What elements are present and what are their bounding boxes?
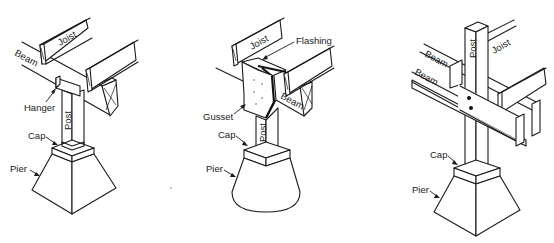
label-flashing: Flashing bbox=[296, 35, 332, 46]
pier bbox=[232, 158, 300, 212]
post-and-pier-diagrams: Joist Beam Hanger Post Cap Pier bbox=[0, 0, 554, 243]
label-cap: Cap bbox=[28, 130, 45, 141]
beam-front-left-end bbox=[450, 60, 462, 88]
label-post: Post bbox=[62, 111, 73, 130]
label-beam-upper: Beam bbox=[423, 48, 450, 69]
pier bbox=[32, 154, 116, 214]
label-gusset: Gusset bbox=[203, 111, 233, 122]
label-cap: Cap bbox=[218, 129, 235, 140]
label-post: Post bbox=[467, 39, 478, 58]
cap-leader-arrow bbox=[448, 156, 458, 165]
pier-leader-arrow bbox=[224, 170, 236, 177]
label-pier: Pier bbox=[412, 184, 429, 195]
cap-leader-arrow bbox=[236, 136, 248, 146]
figure-gusset-connection: Joist Flashing Gusset Beam Post Cap Pier bbox=[203, 18, 334, 212]
label-post: Post bbox=[257, 123, 268, 142]
hanger-leader-arrow bbox=[46, 88, 56, 102]
figure-hanger-connection: Joist Beam Hanger Post Cap Pier bbox=[10, 18, 138, 214]
label-pier: Pier bbox=[10, 163, 27, 174]
pier-leader-arrow bbox=[30, 170, 40, 176]
label-pier: Pier bbox=[206, 163, 223, 174]
label-cap: Cap bbox=[430, 149, 447, 160]
cap-leader-arrow bbox=[46, 137, 58, 145]
label-joist: Joist bbox=[490, 36, 513, 55]
figure-through-post-connection: Post Beam Beam Joist Cap Pier bbox=[412, 20, 546, 236]
stray-mark bbox=[170, 187, 172, 189]
pier bbox=[434, 176, 520, 236]
pier-leader-arrow bbox=[430, 191, 440, 198]
label-hanger: Hanger bbox=[24, 102, 55, 113]
